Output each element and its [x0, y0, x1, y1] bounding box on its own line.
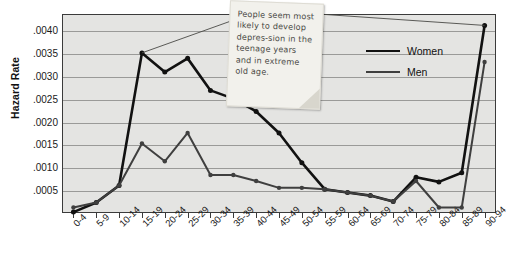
legend-label-women: Women	[407, 45, 443, 57]
annotation-sticky-note: People seem most likely to develop depre…	[226, 0, 324, 110]
y-axis-tick-label: .0020	[14, 116, 58, 127]
annotation-text: People seem most likely to develop depre…	[235, 9, 316, 80]
legend-swatch-women-icon	[366, 50, 400, 52]
y-axis-tick-label: .0015	[14, 139, 58, 150]
chart-legend: Women Men	[366, 40, 443, 82]
legend-swatch-men-icon	[366, 71, 400, 73]
x-axis-tick-labels: 0-45-910-1415-1920-2425-2930-3435-3940-4…	[62, 213, 496, 265]
gridline	[63, 168, 495, 169]
y-axis-tick-label: .0025	[14, 93, 58, 104]
y-axis-tick-label: .0030	[14, 70, 58, 81]
gridline	[63, 145, 495, 146]
legend-label-men: Men	[407, 66, 427, 78]
y-axis-tick-label: .0035	[14, 47, 58, 58]
y-axis-tick-label: .0005	[14, 185, 58, 196]
gridline	[63, 123, 495, 124]
y-axis-tick-label: .0010	[14, 162, 58, 173]
gridline	[63, 191, 495, 192]
legend-item-men: Men	[366, 61, 443, 82]
y-axis-tick-label: .0040	[14, 25, 58, 36]
y-axis-tick-labels: .0005.0010.0015.0020.0025.0030.0035.0040	[8, 14, 58, 213]
legend-item-women: Women	[366, 40, 443, 61]
